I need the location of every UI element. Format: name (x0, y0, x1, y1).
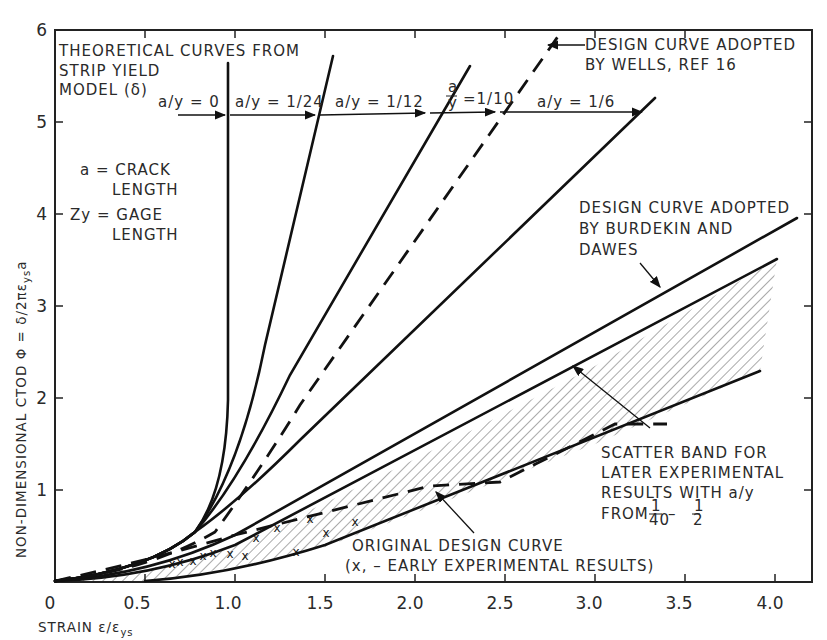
svg-text:x: x (351, 515, 358, 529)
x-tick-4.0: 4.0 (756, 593, 783, 613)
y-tick-4: 4 (36, 204, 47, 224)
burdekin-label-line2: BY BURDEKIN AND (579, 220, 733, 238)
x-tick-0.5: 0.5 (123, 593, 150, 613)
scatter-frac1-den: 40 (649, 511, 670, 529)
theoretical-label-line3: MODEL (δ) (59, 81, 148, 99)
y-tick-2: 2 (36, 388, 47, 408)
svg-text:x: x (252, 531, 259, 545)
svg-text:x: x (209, 546, 216, 560)
label-ay-1-10-den: y (448, 94, 458, 112)
label-ay-1-24: a/y = 1/24 (235, 93, 324, 111)
original-label-line2: (x, – EARLY EXPERIMENTAL RESULTS) (345, 557, 654, 575)
svg-text:x: x (322, 526, 329, 540)
scatter-label-from: FROM (601, 505, 649, 523)
y-tick-6: 6 (36, 20, 47, 40)
zy-definition-line1: Zy = GAGE (70, 206, 163, 224)
scatter-upper-bound (55, 259, 777, 581)
a-definition-line1: a = CRACK (80, 161, 171, 179)
svg-text:x: x (273, 521, 280, 535)
scatter-band (60, 259, 777, 581)
y-axis-title: NON-DIMENSIONAL CTOD Φ = δ/2πεysa (13, 261, 32, 558)
theoretical-label-line2: STRIP YIELD (59, 62, 160, 80)
svg-text:x: x (306, 512, 313, 526)
label-ay-0: a/y = 0 (158, 93, 220, 111)
burdekin-leader (640, 263, 660, 287)
scatter-frac2-den: 2 (693, 511, 704, 529)
y-tick-labels: 1 2 3 4 5 6 (36, 20, 47, 500)
svg-text:x: x (189, 554, 196, 568)
y-tick-3: 3 (36, 296, 47, 316)
curve-wells-dashed (55, 35, 559, 581)
label-ay-1-12: a/y = 1/12 (335, 93, 424, 111)
curve-ay-0 (55, 63, 228, 581)
wells-label-line1: DESIGN CURVE ADOPTED (585, 36, 796, 54)
svg-text:x: x (168, 557, 175, 571)
svg-text:x: x (176, 555, 183, 569)
x-tick-labels: 0 0.5 1.0 1.5 2.0 2.5 3.0 3.5 4.0 (45, 593, 784, 613)
theoretical-label-line1: THEORETICAL CURVES FROM (58, 42, 300, 60)
scatter-dash: – (668, 505, 677, 523)
svg-text:x: x (199, 549, 206, 563)
x-tick-3.5: 3.5 (665, 593, 692, 613)
a-definition-line2: LENGTH (112, 181, 179, 199)
original-label-line1: ORIGINAL DESIGN CURVE (352, 537, 564, 555)
wells-label-line2: BY WELLS, REF 16 (585, 56, 737, 74)
x-axis-title: STRAIN ε/εys (38, 619, 134, 638)
svg-text:x: x (226, 547, 233, 561)
scatter-label-line3: RESULTS WITH a/y (601, 484, 755, 502)
y-tick-1: 1 (36, 480, 47, 500)
original-leader (436, 492, 474, 533)
y-tick-5: 5 (36, 112, 47, 132)
x-tick-1.0: 1.0 (214, 593, 241, 613)
ay-arrows (178, 112, 642, 115)
scatter-label-line2: LATER EXPERIMENTAL (601, 464, 784, 482)
zy-definition-line2: LENGTH (112, 226, 179, 244)
svg-text:x: x (292, 545, 299, 559)
svg-text:x: x (241, 549, 248, 563)
x-tick-2.0: 2.0 (396, 593, 423, 613)
burdekin-label-line3: DAWES (579, 241, 639, 259)
x-tick-2.5: 2.5 (486, 593, 513, 613)
ctod-strain-chart: 0 0.5 1.0 1.5 2.0 2.5 3.0 3.5 4.0 1 2 3 … (0, 0, 827, 640)
x-tick-0: 0 (45, 593, 56, 613)
x-tick-1.5: 1.5 (306, 593, 333, 613)
label-ay-1-10: =1/10 (463, 90, 514, 108)
label-ay-1-6: a/y = 1/6 (537, 93, 615, 111)
burdekin-label-line1: DESIGN CURVE ADOPTED (579, 199, 790, 217)
scatter-label-line1: SCATTER BAND FOR (601, 444, 768, 462)
x-tick-3.0: 3.0 (575, 593, 602, 613)
